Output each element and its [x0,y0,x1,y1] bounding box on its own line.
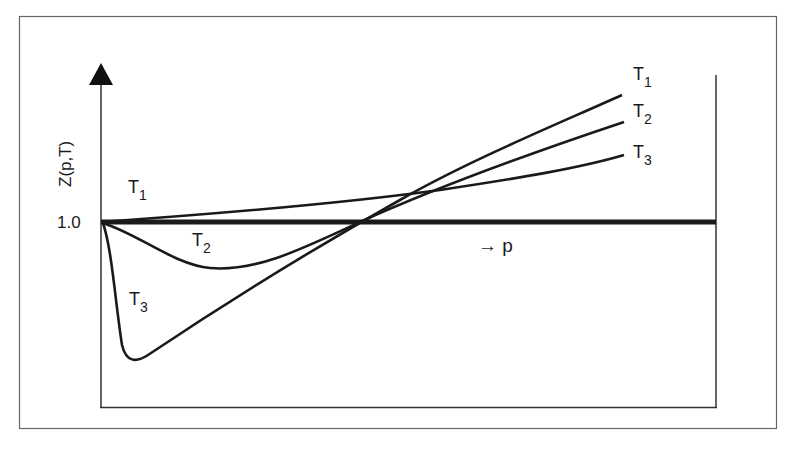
y-axis-arrow-icon [89,63,113,85]
y-tick-1-0: 1.0 [57,213,81,232]
label-left-t2: T2 [192,230,211,256]
label-right-t3: T3 [633,142,652,168]
label-left-t3: T3 [129,289,148,315]
curve-t3 [103,95,622,360]
compressibility-chart: Z(p,T) 1.0 → p T1 T2 T3 T1 T2 T3 [0,0,797,449]
curve-t1 [101,155,624,222]
label-left-t1: T1 [128,177,147,203]
y-axis-label: Z(p,T) [56,141,75,187]
label-right-t1: T1 [633,64,652,90]
curve-t2 [103,122,624,268]
x-axis-label: → p [478,235,513,256]
label-right-t2: T2 [633,101,652,127]
